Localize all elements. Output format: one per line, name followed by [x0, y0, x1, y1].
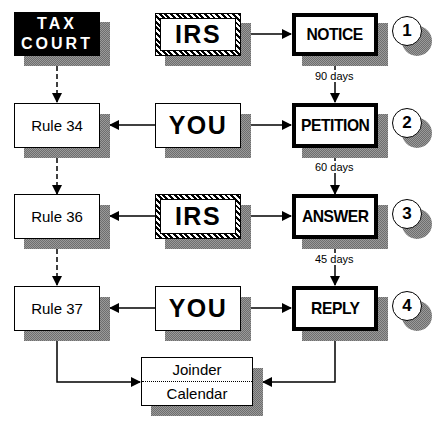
interval-label-60: 60 days [313, 161, 356, 173]
you-2-box: YOU [155, 286, 241, 331]
actor-to-rule-arrows [110, 125, 155, 308]
step-3-number: 3 [402, 204, 411, 224]
irs-2-label: IRS [175, 202, 221, 231]
tax-court-box: TAX COURT [14, 12, 100, 56]
you-2-label: YOU [169, 294, 228, 323]
diagram-canvas: TAX COURT Rule 34 Rule 36 Rule 37 IRS YO… [0, 0, 443, 426]
rule-36-label: Rule 36 [31, 208, 83, 225]
actor-to-step-arrows [251, 34, 291, 308]
irs-1-box: IRS [155, 13, 241, 56]
tax-court-line2: COURT [21, 34, 93, 54]
petition-box: PETITION [292, 103, 378, 148]
step-4-badge: 4 [392, 291, 422, 321]
step-1-number: 1 [402, 21, 411, 41]
petition-label: PETITION [301, 116, 369, 136]
irs-1-label: IRS [175, 20, 221, 49]
joinder-calendar-box: Joinder Calendar [141, 357, 253, 406]
answer-box: ANSWER [292, 194, 378, 239]
reply-box: REPLY [292, 286, 378, 331]
tax-court-line1: TAX [37, 14, 77, 34]
interval-label-45: 45 days [313, 253, 356, 265]
notice-box: NOTICE [292, 13, 378, 56]
step-2-badge: 2 [392, 108, 422, 138]
rule-37-box: Rule 37 [14, 286, 100, 331]
step-4-number: 4 [402, 296, 411, 316]
interval-label-90: 90 days [313, 70, 356, 82]
rule-36-box: Rule 36 [14, 194, 100, 239]
reply-label: REPLY [311, 299, 359, 319]
irs-2-box: IRS [155, 194, 241, 239]
step-1-badge: 1 [392, 16, 422, 46]
step-3-badge: 3 [392, 199, 422, 229]
notice-label: NOTICE [307, 25, 363, 45]
rule-37-label: Rule 37 [31, 300, 83, 317]
you-1-label: YOU [169, 111, 228, 140]
step-2-number: 2 [402, 113, 411, 133]
rule-34-box: Rule 34 [14, 103, 100, 148]
calendar-label: Calendar [142, 382, 252, 405]
you-1-box: YOU [155, 103, 241, 148]
rule-34-label: Rule 34 [31, 117, 83, 134]
answer-label: ANSWER [302, 207, 369, 227]
joinder-label: Joinder [142, 358, 252, 381]
